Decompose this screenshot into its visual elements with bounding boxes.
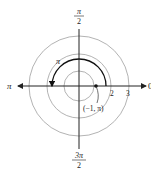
axis-label-right: 0 [148,81,151,91]
point-label: (−1, π) [83,104,104,113]
axis-label-top-denominator: 2 [77,17,81,26]
axis-label-left: π [7,81,12,91]
axis-label-top-numerator: π [77,7,82,16]
arc-label: π [56,57,61,66]
radius-tick-label-3: 3 [126,89,130,98]
axis-label-bottom-denominator: 2 [77,161,81,170]
axis-label-bottom-numerator: 3π [74,151,84,160]
point-leader-line [96,86,98,103]
radius-tick-label-2: 2 [110,89,114,98]
polar-diagram: 0 π π 2 3π 2 2 3 π (−1, π) [0,0,151,171]
